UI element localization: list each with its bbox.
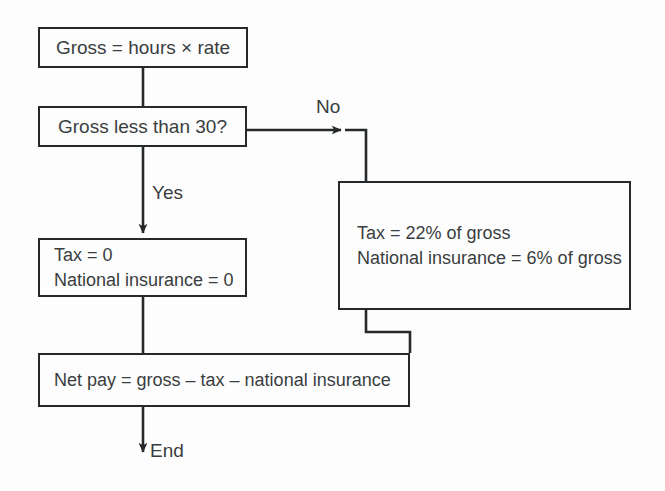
edge-label-no: No [316,96,340,118]
edge-label-end: End [150,440,184,462]
process-node-net-pay: Net pay = gross – tax – national insuran… [38,353,410,407]
process-node-net-pay-line-1: Net pay = gross – tax – national insuran… [54,368,391,392]
decision-node-line-1: Gross less than 30? [58,114,227,139]
process-node-percentage-tax-line-2: National insurance = 6% of gross [357,246,622,270]
process-node-zero-tax-line-1: Tax = 0 [54,243,113,267]
flowchart-canvas: Gross = hours × rate Gross less than 30?… [0,0,665,491]
process-node-zero-tax: Tax = 0 National insurance = 0 [38,238,247,297]
process-node-gross: Gross = hours × rate [38,27,248,68]
process-node-percentage-tax: Tax = 22% of gross National insurance = … [338,181,631,310]
process-node-gross-line-1: Gross = hours × rate [56,35,230,60]
connector-decision-to-pct-tax-elbow [345,130,366,181]
edge-label-yes: Yes [152,182,183,204]
process-node-percentage-tax-line-1: Tax = 22% of gross [357,221,511,245]
process-node-zero-tax-line-2: National insurance = 0 [54,268,234,292]
connector-pct-tax-to-netpay [366,310,410,353]
decision-node-gross-less-than-30: Gross less than 30? [38,106,247,147]
